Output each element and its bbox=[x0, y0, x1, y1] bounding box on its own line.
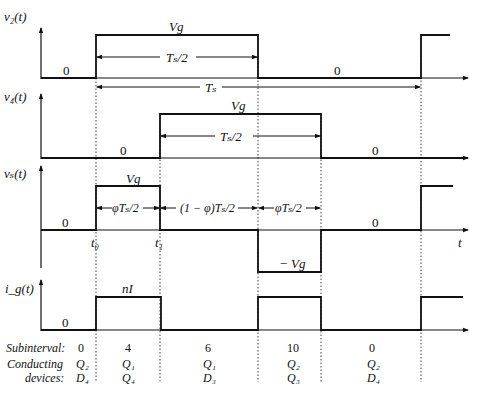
v2-zero-label-2: 0 bbox=[334, 64, 341, 77]
device-label: Q₁ bbox=[203, 358, 216, 370]
vs-span-label-1: φTₛ/2 bbox=[112, 202, 139, 214]
device-label: Q₁ bbox=[122, 358, 135, 370]
ig-high-label: nI bbox=[122, 282, 133, 295]
v2-span-label: Tₛ/2 bbox=[166, 51, 188, 64]
vs-high-label: Vg bbox=[126, 172, 140, 185]
v4-axis-label: v₄(t) bbox=[4, 90, 27, 103]
device-label: Q₂ bbox=[367, 358, 380, 370]
device-label: D₃ bbox=[203, 372, 216, 384]
device-label: D₄ bbox=[367, 372, 380, 384]
v4-zero-label-1: 0 bbox=[120, 144, 127, 157]
device-label: Q₄ bbox=[122, 372, 135, 384]
t1-label: t₁ bbox=[155, 236, 163, 249]
conducting-row-label: Conducting bbox=[7, 358, 63, 370]
devices-row-label: devices: bbox=[25, 372, 64, 384]
vs-zero-label-1: 0 bbox=[62, 216, 69, 229]
subinterval-value: 4 bbox=[125, 342, 131, 354]
subinterval-value: 0 bbox=[369, 342, 375, 354]
subinterval-value: 10 bbox=[287, 342, 299, 354]
v4-span-label: Tₛ/2 bbox=[220, 130, 242, 143]
vs-zero-label-2: 0 bbox=[372, 216, 379, 229]
v2-high-label: Vg bbox=[169, 20, 183, 33]
period-label: Tₛ bbox=[205, 81, 217, 94]
device-label: Q₂ bbox=[76, 358, 89, 370]
v4-high-label: Vg bbox=[231, 99, 245, 112]
subinterval-value: 6 bbox=[205, 342, 211, 354]
ig-axis-label: i_g(t) bbox=[5, 282, 34, 295]
subinterval-value: 0 bbox=[78, 342, 84, 354]
subinterval-row-label: Subinterval: bbox=[6, 342, 65, 354]
device-label: Q₃ bbox=[287, 372, 300, 384]
device-label: D₄ bbox=[76, 372, 89, 384]
vs-span-label-2: (1 − φ)Tₛ/2 bbox=[180, 202, 235, 214]
v2-zero-label-1: 0 bbox=[63, 64, 70, 77]
v4-zero-label-2: 0 bbox=[372, 144, 379, 157]
device-label: Q₂ bbox=[287, 358, 300, 370]
vs-axis-label: vₛ(t) bbox=[4, 167, 26, 180]
v2-axis-label: v₂(t) bbox=[4, 10, 27, 23]
vs-low-label: − Vg bbox=[279, 257, 305, 270]
ig-zero-label: 0 bbox=[62, 316, 69, 329]
waveform-diagram bbox=[0, 0, 479, 396]
vs-span-label-3: φTₛ/2 bbox=[275, 202, 302, 214]
time-axis-label: t bbox=[458, 236, 462, 249]
t0-label: t₀ bbox=[91, 236, 99, 249]
